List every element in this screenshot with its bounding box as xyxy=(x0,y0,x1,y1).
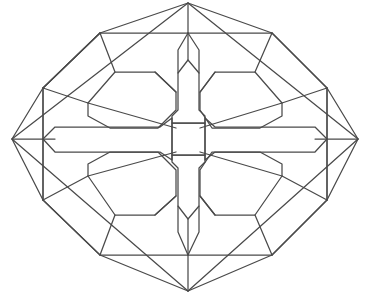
artboard xyxy=(0,0,371,295)
geometric-rosette-figure xyxy=(0,0,371,295)
